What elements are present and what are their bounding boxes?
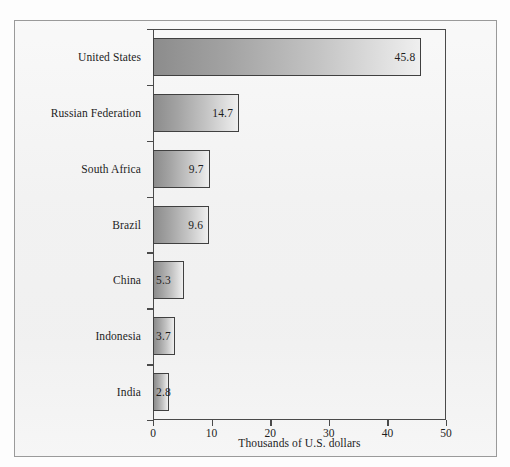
category-tick <box>147 252 154 253</box>
bar-value-label: 9.7 <box>189 163 204 175</box>
bar-row: 14.7 <box>153 94 446 132</box>
category-label-china: China <box>113 274 141 286</box>
category-axis-labels: United StatesRussian FederationSouth Afr… <box>0 29 147 420</box>
bar-value-label: 14.7 <box>212 107 233 119</box>
x-tick <box>387 420 388 426</box>
bars-layer: 45.814.79.79.65.33.72.8 <box>153 29 446 420</box>
category-label-south-africa: South Africa <box>81 163 141 175</box>
bar-row: 3.7 <box>153 317 446 355</box>
category-label-indonesia: Indonesia <box>95 330 141 342</box>
bar-value-label: 3.7 <box>156 330 171 342</box>
category-label-brazil: Brazil <box>112 219 141 231</box>
bar-value-label: 9.6 <box>188 219 203 231</box>
category-tick <box>147 141 154 142</box>
bar-row: 45.8 <box>153 38 446 76</box>
category-tick <box>147 85 154 86</box>
x-tick <box>212 420 213 426</box>
x-tick <box>270 420 271 426</box>
bar-row: 5.3 <box>153 261 446 299</box>
bar-value-label: 5.3 <box>156 274 171 286</box>
x-axis-title: Thousands of U.S. dollars <box>153 437 446 449</box>
category-label-united-states: United States <box>78 51 141 63</box>
x-tick <box>446 420 447 426</box>
category-tick <box>147 197 154 198</box>
category-tick <box>147 364 154 365</box>
category-label-russian-federation: Russian Federation <box>51 107 141 119</box>
category-label-india: India <box>117 386 141 398</box>
bar-value-label: 2.8 <box>156 386 171 398</box>
category-tick <box>147 29 154 30</box>
bar-united-states[interactable] <box>153 38 421 76</box>
category-tick <box>147 308 154 309</box>
bar-value-label: 45.8 <box>394 51 415 63</box>
bar-row: 9.6 <box>153 206 446 244</box>
category-tick <box>147 420 154 421</box>
figure-container: United StatesRussian FederationSouth Afr… <box>0 0 510 467</box>
bar-row: 9.7 <box>153 150 446 188</box>
bar-row: 2.8 <box>153 373 446 411</box>
x-tick <box>329 420 330 426</box>
